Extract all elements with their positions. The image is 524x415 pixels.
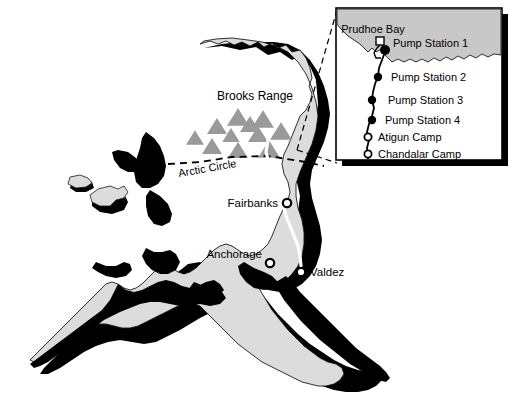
brooks-range-label: Brooks Range [217,89,293,103]
inset-label-pump-station-3: Pump Station 3 [388,94,463,106]
inset-detail-box: Prudhoe Bay Pump Station 1 Pump Station … [336,8,508,166]
marker-chandalar-camp [364,150,371,157]
brooks-range-mountains [186,108,292,158]
city-marker-valdez [297,268,305,276]
alaska-pipeline-map-figure: Arctic Circle Brooks Range Fairbanks Anc… [0,0,524,415]
marker-pump-station-2 [374,73,382,81]
northwest-shadow [112,132,172,226]
marker-pump-station-1 [380,45,390,55]
offshore-island-small [68,175,94,192]
marker-pump-station-3 [368,96,376,104]
inset-label-prudhoe-bay: Prudhoe Bay [341,23,405,35]
inset-label-atigun-camp: Atigun Camp [378,131,442,143]
inset-label-pump-station-4: Pump Station 4 [385,114,460,126]
city-marker-fairbanks [283,199,291,207]
offshore-island [90,186,128,214]
map-canvas: Arctic Circle Brooks Range Fairbanks Anc… [0,0,524,415]
city-label-fairbanks: Fairbanks [228,197,279,209]
inset-label-chandalar-camp: Chandalar Camp [378,148,461,160]
marker-prudhoe-bay [376,37,384,45]
marker-pump-station-4 [368,116,376,124]
inset-label-pump-station-1: Pump Station 1 [393,37,468,49]
city-marker-anchorage [266,259,274,267]
marker-atigun-camp [364,133,371,140]
inset-label-pump-station-2: Pump Station 2 [391,71,466,83]
city-label-valdez: Valdez [310,266,345,278]
city-label-anchorage: Anchorage [206,248,262,260]
